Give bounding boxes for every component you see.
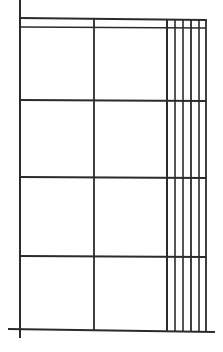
drawing-canvas	[0, 0, 223, 352]
line-drawing	[0, 0, 223, 352]
mid-rail-2	[20, 177, 206, 178]
drawing-background	[0, 0, 223, 352]
mid-rail-1	[20, 100, 206, 101]
top-rail-lower	[20, 27, 206, 28]
mid-rail-3	[20, 256, 206, 257]
